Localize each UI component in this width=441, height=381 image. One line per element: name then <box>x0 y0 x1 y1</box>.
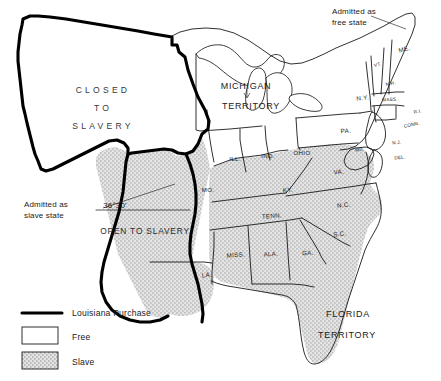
state-label-nj: N.J. <box>392 139 402 145</box>
state-label-ind: IND. <box>261 152 275 159</box>
map-legend: Louisiana Purchase Free Slave <box>22 308 151 369</box>
legend-label-slave: Slave <box>72 357 95 367</box>
mass-south-border <box>372 105 404 106</box>
state-label-ala: ALA. <box>263 250 278 258</box>
legend-label-louisiana-purchase: Louisiana Purchase <box>72 308 151 318</box>
closed-to-slavery-line-2: TO <box>94 103 112 113</box>
state-label-mass: MASS. <box>382 96 398 102</box>
state-label-del: DEL. <box>394 154 405 160</box>
state-label-ill: ILL. <box>229 155 241 162</box>
state-label-la: LA. <box>201 271 212 279</box>
state-label-conn: CONN. <box>403 120 420 128</box>
legend-label-free: Free <box>72 332 90 342</box>
florida-territory-line-1: FLORIDA <box>326 309 370 319</box>
state-label-miss: MISS. <box>226 250 245 258</box>
missouri-annotation-line-1: Admitted as <box>24 200 68 209</box>
map-canvas: CLOSED TO SLAVERY OPEN TO SLAVERY 36°30'… <box>0 0 441 381</box>
missouri-compromise-map: CLOSED TO SLAVERY OPEN TO SLAVERY 36°30'… <box>0 0 441 381</box>
state-label-ga: GA. <box>302 249 314 257</box>
maine-annotation-line-2: free state <box>332 18 367 27</box>
state-label-ri: R.I. <box>413 108 422 115</box>
florida-territory-line-2: TERRITORY <box>318 330 376 340</box>
michigan-territory-line-1: MICHIGAN <box>221 81 272 91</box>
state-label-nc: N.C. <box>337 200 351 208</box>
eastern-free-fill <box>172 12 416 168</box>
closed-to-slavery-line-1: CLOSED <box>76 85 131 95</box>
compromise-line-label: 36°30' <box>103 201 127 210</box>
state-label-ohio: OHIO <box>293 149 310 156</box>
legend-swatch-free <box>22 327 58 344</box>
closed-to-slavery-line-3: SLAVERY <box>72 121 133 131</box>
missouri-annotation-line-2: slave state <box>24 211 64 220</box>
maine-annotation-line-1: Admitted as <box>332 7 376 16</box>
open-to-slavery-label: OPEN TO SLAVERY <box>100 226 190 236</box>
michigan-territory-line-2: TERRITORY <box>222 101 280 111</box>
state-label-nh: N.H. <box>385 80 396 87</box>
state-label-mo: MO. <box>202 186 215 193</box>
state-label-va: VA. <box>333 168 344 176</box>
state-label-tenn: TENN. <box>262 211 283 219</box>
state-label-pa: PA. <box>340 127 351 135</box>
legend-swatch-slave <box>22 352 58 369</box>
state-label-sc: S.C. <box>333 229 347 237</box>
conn-south-border <box>375 119 396 120</box>
state-label-ky: KY. <box>282 186 293 194</box>
